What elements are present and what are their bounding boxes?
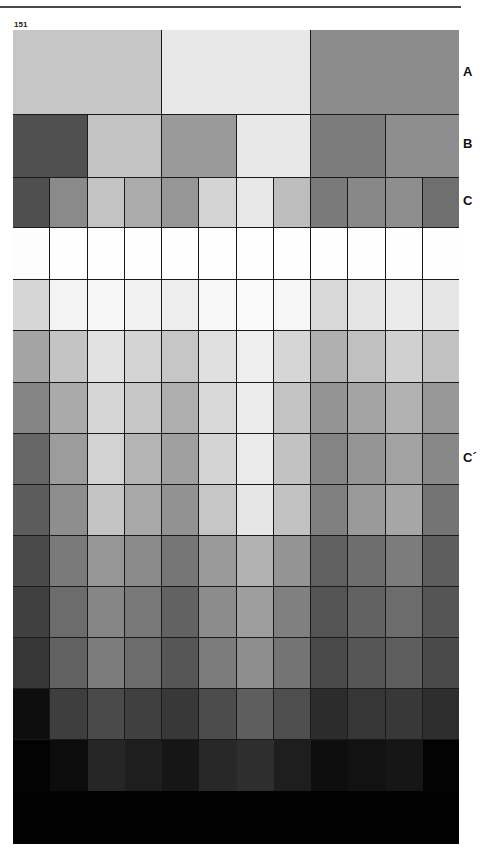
- tone-patch: [237, 280, 274, 331]
- tone-patch: [274, 791, 311, 844]
- tone-patch: [423, 228, 459, 280]
- tone-patch: [199, 791, 236, 844]
- tone-patch: [274, 280, 311, 331]
- tone-patch: [13, 30, 162, 115]
- tone-patch: [50, 434, 87, 485]
- tone-patch: [199, 178, 236, 228]
- tone-patch: [386, 485, 423, 536]
- tone-patch: [386, 331, 423, 383]
- tone-patch: [50, 485, 87, 536]
- tone-patch: [423, 178, 459, 228]
- tone-patch: [88, 536, 125, 587]
- page-number: 151: [14, 20, 27, 29]
- patch-row: [13, 536, 459, 587]
- tone-patch: [50, 178, 87, 228]
- tone-patch: [199, 689, 236, 740]
- tone-patch: [237, 178, 274, 228]
- tone-patch: [237, 740, 274, 791]
- tone-patch: [162, 115, 237, 178]
- tone-patch: [423, 434, 459, 485]
- tone-patch: [50, 689, 87, 740]
- row-label-b: B: [463, 136, 472, 151]
- tone-patch: [50, 791, 87, 844]
- tone-patch: [88, 587, 125, 638]
- tone-patch: [386, 383, 423, 434]
- tone-patch: [162, 740, 199, 791]
- tone-patch: [348, 434, 385, 485]
- tone-patch: [13, 791, 50, 844]
- tone-patch: [88, 228, 125, 280]
- tone-patch: [13, 280, 50, 331]
- tone-patch: [162, 434, 199, 485]
- tone-patch: [162, 331, 199, 383]
- patch-row: [13, 791, 459, 844]
- tone-patch: [348, 689, 385, 740]
- tone-patch: [348, 178, 385, 228]
- tone-patch: [50, 638, 87, 689]
- tone-patch: [88, 791, 125, 844]
- tone-patch: [311, 740, 348, 791]
- tone-patch: [386, 228, 423, 280]
- tone-patch: [88, 434, 125, 485]
- tone-patch: [50, 228, 87, 280]
- tone-patch: [348, 638, 385, 689]
- tone-patch: [348, 228, 385, 280]
- tone-patch: [386, 791, 423, 844]
- tone-patch: [162, 638, 199, 689]
- tone-patch: [199, 740, 236, 791]
- tone-patch: [274, 689, 311, 740]
- tone-patch: [125, 689, 162, 740]
- tone-patch: [199, 228, 236, 280]
- tone-patch: [237, 485, 274, 536]
- tone-patch: [237, 587, 274, 638]
- tone-patch: [386, 536, 423, 587]
- tone-patch: [162, 485, 199, 536]
- tone-patch: [162, 228, 199, 280]
- tone-patch: [386, 689, 423, 740]
- tone-patch: [88, 115, 163, 178]
- row-label-c: C: [463, 193, 472, 208]
- tone-patch: [274, 485, 311, 536]
- tone-patch: [311, 228, 348, 280]
- tone-patch: [423, 791, 459, 844]
- tone-patch: [423, 638, 459, 689]
- tone-patch: [125, 280, 162, 331]
- tone-patch: [162, 689, 199, 740]
- tone-patch: [311, 791, 348, 844]
- tone-patch: [125, 178, 162, 228]
- tone-patch: [13, 536, 50, 587]
- tone-patch: [199, 280, 236, 331]
- tone-patch: [125, 434, 162, 485]
- tone-patch: [423, 740, 459, 791]
- tone-patch: [237, 689, 274, 740]
- tone-patch: [237, 331, 274, 383]
- tone-patch: [88, 331, 125, 383]
- tone-patch-chart: [13, 30, 459, 844]
- tone-patch: [50, 740, 87, 791]
- tone-patch: [423, 331, 459, 383]
- tone-patch: [311, 689, 348, 740]
- patch-row: [13, 331, 459, 383]
- tone-patch: [88, 740, 125, 791]
- patch-row: [13, 228, 459, 280]
- tone-patch: [162, 587, 199, 638]
- tone-patch: [199, 485, 236, 536]
- tone-patch: [348, 485, 385, 536]
- tone-patch: [50, 536, 87, 587]
- tone-patch: [274, 587, 311, 638]
- tone-patch: [88, 638, 125, 689]
- tone-patch: [125, 228, 162, 280]
- tone-patch: [162, 280, 199, 331]
- tone-patch: [423, 587, 459, 638]
- tone-patch: [125, 485, 162, 536]
- tone-patch: [386, 115, 460, 178]
- tone-patch: [162, 30, 311, 115]
- tone-patch: [199, 638, 236, 689]
- patch-row: [13, 485, 459, 536]
- tone-patch: [50, 587, 87, 638]
- tone-patch: [162, 536, 199, 587]
- tone-patch: [274, 740, 311, 791]
- tone-patch: [311, 638, 348, 689]
- patch-row: [13, 740, 459, 791]
- tone-patch: [274, 331, 311, 383]
